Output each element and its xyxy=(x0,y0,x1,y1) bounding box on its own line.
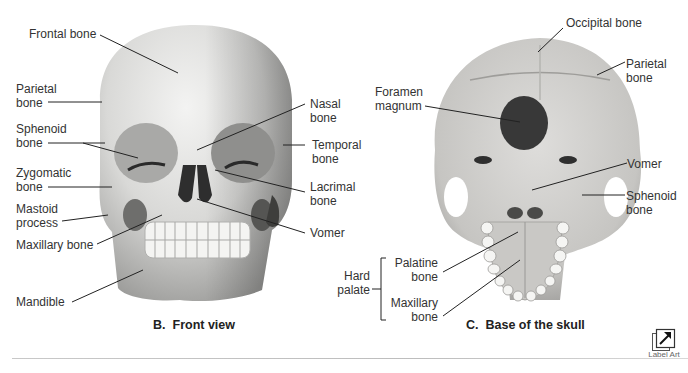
label-nasal-bone: Nasal bone xyxy=(310,97,341,125)
label-palatine-bone: Palatine bone xyxy=(386,256,438,284)
caption-text-base-of-skull: Base of the skull xyxy=(486,318,585,332)
label-mandible: Mandible xyxy=(16,295,65,309)
label-art-button[interactable]: Label Art xyxy=(644,328,684,362)
arrow-up-right-icon xyxy=(651,328,677,352)
label-maxillary-bone-base: Maxillary bone xyxy=(386,296,438,324)
front-skull-drawing xyxy=(100,25,293,301)
base-skull-drawing xyxy=(434,38,641,301)
bottom-divider xyxy=(12,358,688,359)
label-lacrimal-bone: Lacrimal bone xyxy=(310,180,355,208)
label-zygomatic-bone: Zygomatic bone xyxy=(16,166,71,194)
label-parietal-bone-front: Parietal bone xyxy=(16,82,57,110)
label-hard-palate: Hard palate xyxy=(332,269,370,297)
label-foramen-magnum: Foramen magnum xyxy=(375,85,423,113)
label-sphenoid-bone-front: Sphenoid bone xyxy=(16,122,67,150)
skull-diagram: Frontal bone Parietal bone Sphenoid bone… xyxy=(0,0,688,373)
label-frontal-bone: Frontal bone xyxy=(29,27,96,41)
caption-base-of-skull: C.Base of the skull xyxy=(466,318,585,332)
label-occipital-bone: Occipital bone xyxy=(566,16,642,30)
caption-letter-b: B. xyxy=(153,318,166,332)
label-maxillary-bone-front: Maxillary bone xyxy=(16,238,93,252)
label-parietal-bone-base: Parietal bone xyxy=(626,57,667,85)
label-vomer-front: Vomer xyxy=(310,226,345,240)
label-temporal-bone: Temporal bone xyxy=(312,138,361,166)
caption-letter-c: C. xyxy=(466,318,479,332)
label-vomer-base: Vomer xyxy=(627,157,662,171)
caption-text-front-view: Front view xyxy=(173,318,236,332)
label-sphenoid-bone-base: Sphenoid bone xyxy=(626,189,677,217)
caption-front-view: B.Front view xyxy=(153,318,235,332)
label-mastoid-process: Mastoid process xyxy=(16,202,58,230)
